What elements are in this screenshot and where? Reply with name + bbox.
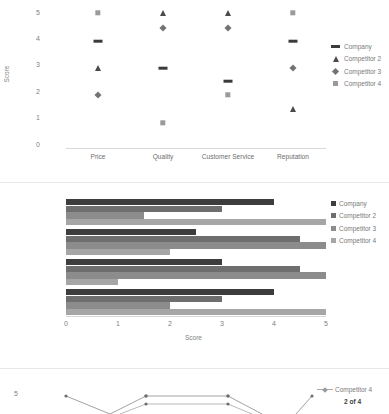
line-point[interactable]	[144, 394, 148, 398]
bar-reputation-competitor-4[interactable]	[66, 219, 326, 225]
scatter-legend-label-competitor-2: Competitor 2	[344, 55, 381, 62]
bar-group-customer-service	[66, 229, 326, 256]
scatter-legend-item-competitor-3[interactable]: Competitor 3	[330, 65, 381, 78]
bar-quality-company[interactable]	[66, 259, 222, 265]
scatter-y-tick-0: 0	[36, 141, 40, 148]
scatter-category-quality: Quality	[153, 153, 174, 160]
bar-price-competitor-4[interactable]	[66, 309, 326, 315]
bar-customer-service-competitor-3[interactable]	[66, 242, 326, 248]
scatter-legend-label-competitor-3: Competitor 3	[344, 68, 381, 75]
scatter-point-price-competitor-2[interactable]	[95, 65, 101, 71]
bar-legend: Company Competitor 2 Competitor 3 Compet…	[331, 197, 376, 247]
bar-legend-item-competitor-4[interactable]: Competitor 4	[331, 235, 376, 248]
square-swatch-icon	[331, 213, 336, 218]
bar-reputation-competitor-2[interactable]	[66, 206, 222, 212]
bar-group-price	[66, 289, 326, 316]
scatter-point-customer-service-competitor-3[interactable]	[224, 24, 231, 31]
line-point[interactable]	[226, 402, 229, 405]
bar-x-tick-1: 1	[116, 320, 120, 327]
line-chart-partial: 5	[0, 362, 389, 414]
scatter-point-price-competitor-4[interactable]	[95, 10, 100, 15]
dash-marker-icon	[330, 45, 341, 48]
scatter-y-tick-3: 3	[36, 61, 40, 68]
scatter-y-tick-1: 1	[36, 114, 40, 121]
bar-quality-competitor-3[interactable]	[66, 272, 326, 278]
scatter-y-tick-2: 2	[36, 88, 40, 95]
bar-x-tick-4: 4	[272, 320, 276, 327]
square-swatch-icon	[331, 238, 336, 243]
scatter-category-reputation: Reputation	[277, 153, 309, 160]
scatter-point-quality-competitor-3[interactable]	[159, 24, 166, 31]
scatter-point-customer-service-competitor-2[interactable]	[225, 10, 231, 16]
bar-reputation-company[interactable]	[66, 199, 274, 205]
bar-x-axis-title: Score	[185, 334, 202, 341]
bar-legend-label-competitor-3: Competitor 3	[339, 225, 376, 232]
scatter-y-tick-4: 4	[36, 35, 40, 42]
line-point[interactable]	[144, 402, 147, 405]
scatter-point-price-company[interactable]	[94, 40, 103, 43]
scatter-legend-item-competitor-4[interactable]: Competitor 4	[330, 78, 381, 91]
square-swatch-icon	[331, 201, 336, 206]
scatter-point-price-competitor-3[interactable]	[94, 91, 101, 98]
bar-reputation-competitor-3[interactable]	[66, 212, 144, 218]
line-legend-label-competitor-4: Competitor 4	[335, 386, 372, 393]
bar-x-tick-0: 0	[64, 320, 68, 327]
bar-price-competitor-3[interactable]	[66, 302, 170, 308]
bar-legend-label-company: Company	[339, 200, 367, 207]
scatter-plot-area	[66, 8, 326, 148]
scatter-legend-label-company: Company	[344, 43, 372, 50]
scatter-chart: Score 5 4 3 2 1 0	[0, 0, 389, 182]
scatter-point-customer-service-company[interactable]	[224, 80, 233, 83]
bar-legend-label-competitor-2: Competitor 2	[339, 212, 376, 219]
scatter-point-quality-competitor-4[interactable]	[160, 120, 165, 125]
square-marker-icon	[330, 81, 341, 86]
bar-legend-item-competitor-3[interactable]: Competitor 3	[331, 222, 376, 235]
line-point[interactable]	[226, 394, 230, 398]
line-point[interactable]	[310, 394, 313, 397]
triangle-marker-icon	[330, 56, 341, 62]
bar-price-company[interactable]	[66, 289, 274, 295]
scatter-point-customer-service-competitor-4[interactable]	[225, 92, 230, 97]
bar-x-tick-3: 3	[220, 320, 224, 327]
bar-quality-competitor-2[interactable]	[66, 266, 300, 272]
line-point[interactable]	[64, 394, 67, 397]
bar-customer-service-competitor-4[interactable]	[66, 249, 170, 255]
bar-price-competitor-2[interactable]	[66, 296, 222, 302]
square-swatch-icon	[331, 226, 336, 231]
scatter-x-axis-line	[66, 148, 326, 149]
bar-legend-label-competitor-4: Competitor 4	[339, 237, 376, 244]
bar-chart: Reputation 2 of 4 Customer Service 3 of …	[0, 183, 389, 361]
bar-x-tick-5: 5	[324, 320, 328, 327]
scatter-legend-item-company[interactable]: Company	[330, 40, 381, 53]
line-legend-item-competitor-4[interactable]: Competitor 4	[317, 386, 372, 393]
bar-group-quality	[66, 259, 326, 286]
scatter-point-quality-company[interactable]	[159, 67, 168, 70]
diamond-marker-icon	[330, 69, 341, 74]
scatter-point-reputation-company[interactable]	[289, 40, 298, 43]
scatter-point-quality-competitor-2[interactable]	[160, 10, 166, 16]
bar-group-reputation	[66, 199, 326, 226]
scatter-point-reputation-competitor-4[interactable]	[290, 10, 295, 15]
scatter-category-customer-service: Customer Service	[202, 153, 254, 160]
scatter-point-reputation-competitor-3[interactable]	[289, 64, 296, 71]
bar-quality-competitor-4[interactable]	[66, 279, 118, 285]
scatter-legend-item-competitor-2[interactable]: Competitor 2	[330, 53, 381, 66]
scatter-point-reputation-competitor-2[interactable]	[290, 106, 296, 112]
bar-customer-service-company[interactable]	[66, 229, 196, 235]
bar-legend-item-company[interactable]: Company	[331, 197, 376, 210]
bar-plot-area: Reputation 2 of 4 Customer Service 3 of …	[66, 199, 326, 316]
scatter-category-price: Price	[90, 153, 105, 160]
bar-customer-service-competitor-2[interactable]	[66, 236, 300, 242]
scatter-y-tick-5: 5	[36, 9, 40, 16]
bar-legend-item-competitor-2[interactable]: Competitor 2	[331, 210, 376, 223]
line-diamond-marker-icon	[317, 389, 333, 390]
scatter-legend-label-competitor-4: Competitor 4	[344, 80, 381, 87]
screenshot-root: Score 5 4 3 2 1 0	[0, 0, 389, 414]
scatter-legend: Company Competitor 2 Competitor 3 Compet…	[330, 40, 381, 90]
scatter-y-axis-title: Score	[3, 66, 10, 83]
bar-x-axis-line	[66, 316, 326, 317]
bar-x-tick-2: 2	[168, 320, 172, 327]
